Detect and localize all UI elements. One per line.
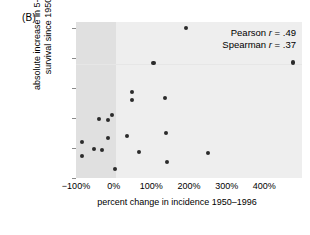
pearson-label: Pearson (231, 27, 269, 38)
y-axis-tick-mark (72, 178, 76, 179)
data-point (151, 61, 155, 65)
x-axis-tick-label: 0% (107, 181, 120, 191)
x-axis-tick-label: 200% (177, 181, 200, 191)
data-point (110, 113, 114, 117)
y-axis-tick-mark (72, 88, 76, 89)
x-axis-tick-label: 400% (253, 181, 276, 191)
data-point (206, 151, 210, 155)
figure-panel-b: (B) Pearson r = .49 Spearman r = .37 0%1… (0, 0, 310, 235)
y-axis-tick-mark (72, 118, 76, 119)
x-axis-label: percent change in incidence 1950–1996 (0, 197, 310, 207)
spearman-value: = .37 (272, 39, 296, 50)
data-point (291, 60, 295, 64)
data-point (184, 26, 188, 30)
y-axis-tick-mark (72, 58, 76, 59)
y-axis-label: absolute increase in 5-year survival sin… (32, 0, 54, 116)
data-point (165, 160, 169, 164)
x-axis-tick-label: 300% (215, 181, 238, 191)
data-point (130, 90, 134, 94)
data-point (113, 167, 117, 171)
y-axis-tick-mark (72, 148, 76, 149)
data-point (92, 147, 96, 151)
y-axis-label-line2: survival since 1950 (43, 0, 54, 116)
x-axis-label-text: percent change in incidence 1950–1996 (53, 197, 257, 207)
gridline-horizontal (76, 64, 302, 65)
data-point (163, 96, 167, 100)
y-axis-label-line1: absolute increase in 5-year (32, 0, 43, 116)
correlation-annotation: Pearson r = .49 Spearman r = .37 (222, 27, 296, 51)
data-point (164, 131, 168, 135)
scatter-plot-area: Pearson r = .49 Spearman r = .37 (76, 22, 302, 178)
spearman-label: Spearman (222, 39, 268, 50)
y-axis-tick-mark (72, 28, 76, 29)
data-point (125, 134, 129, 138)
pearson-annotation: Pearson r = .49 (222, 27, 296, 39)
data-point (130, 98, 134, 102)
data-point (137, 150, 141, 154)
x-axis-tick-label: −100% (62, 181, 90, 191)
pearson-value: = .49 (272, 27, 296, 38)
x-axis-tick-label: 100% (140, 181, 163, 191)
spearman-annotation: Spearman r = .37 (222, 39, 296, 51)
